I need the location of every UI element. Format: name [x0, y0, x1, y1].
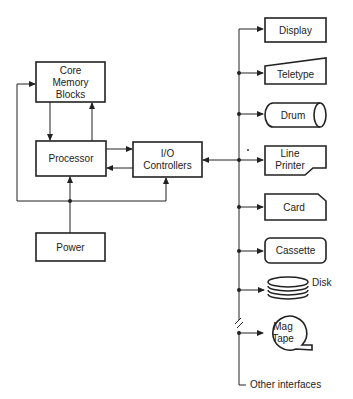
other-interfaces-label: Other interfaces	[250, 379, 321, 390]
line-printer-device: Line Printer	[265, 146, 326, 175]
drum-label: Drum	[281, 110, 305, 121]
io-label-1: I/O	[161, 148, 175, 159]
mag-tape-label-1: Mag	[273, 321, 292, 332]
cassette-label: Cassette	[276, 245, 316, 256]
core-memory-label-2: Memory	[52, 77, 88, 88]
card-label: Card	[283, 202, 305, 213]
card-junction-dot	[237, 205, 241, 209]
line-printer-junction-dot	[237, 158, 241, 162]
power-to-io-line	[70, 178, 166, 201]
disk-junction-dot	[237, 288, 241, 292]
core-memory-label-3: Blocks	[56, 89, 85, 100]
mag-tape-label-2: Tape	[272, 333, 294, 344]
power-junction-dot	[68, 199, 72, 203]
disk-label: Disk	[312, 277, 332, 288]
power-label: Power	[56, 242, 85, 253]
drum-device: Drum	[265, 103, 326, 127]
display-label: Display	[279, 25, 312, 36]
core-memory-label-1: Core	[60, 65, 82, 76]
mag-tape-junction-dot	[237, 331, 241, 335]
processor-label: Processor	[48, 153, 94, 164]
io-label-2: Controllers	[143, 160, 191, 171]
card-device: Card	[265, 194, 326, 220]
break-mark-2	[237, 322, 243, 328]
mag-tape-device: Mag Tape	[272, 316, 312, 350]
teletype-junction-dot	[237, 71, 241, 75]
processor-block: Processor	[36, 141, 106, 176]
system-diagram: Core Memory Blocks Processor I/O Control…	[0, 0, 353, 399]
core-memory-block: Core Memory Blocks	[36, 62, 105, 102]
cassette-device: Cassette	[265, 238, 326, 263]
cassette-junction-dot	[237, 249, 241, 253]
teletype-device: Teletype	[265, 58, 326, 84]
stray-dot	[247, 149, 249, 151]
disk-device: Disk	[268, 277, 332, 299]
break-mark-1	[235, 318, 241, 324]
power-block: Power	[36, 233, 105, 261]
display-device: Display	[265, 18, 326, 42]
drum-junction-dot	[237, 112, 241, 116]
io-controllers-block: I/O Controllers	[133, 142, 202, 177]
line-printer-label-2: Printer	[275, 160, 305, 171]
teletype-label: Teletype	[277, 69, 315, 80]
line-printer-label-1: Line	[281, 148, 300, 159]
